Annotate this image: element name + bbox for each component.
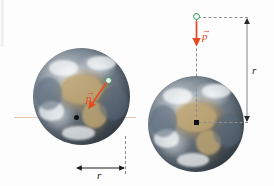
right-radius-symbol: r [252,64,256,76]
right-momentum-label: → p [202,28,210,42]
right-radius-label: r [252,64,256,76]
physics-figure: → p r → p r [0,0,274,186]
arrow-overlay [0,0,274,186]
left-radius-label: r [97,169,101,181]
right-momentum-symbol: p [202,30,208,42]
left-momentum-symbol: p [86,92,92,104]
left-radius-symbol: r [97,169,101,181]
left-momentum-label: → p [86,90,94,104]
